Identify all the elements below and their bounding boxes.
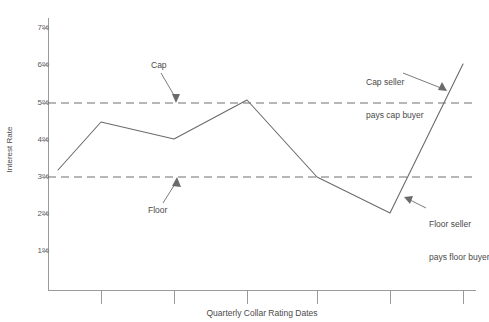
cap-seller-line-1: Cap seller (366, 77, 424, 88)
floor-seller-annotation-label: Floor seller pays floor buyer (429, 197, 489, 285)
interest-rate-collar-chart: 7% 6% 5% 4% 3% 2% 1% Interest Rate Quart… (0, 0, 489, 322)
cap-seller-line-2: pays cap buyer (366, 110, 424, 121)
floor-seller-line-1: Floor seller (429, 219, 489, 230)
plot-area (0, 0, 489, 322)
floor-annotation-label: Floor (148, 205, 167, 216)
cap-annotation-arrow (161, 73, 180, 103)
cap-seller-annotation-label: Cap seller pays cap buyer (366, 55, 424, 143)
cap-annotation-label: Cap (151, 60, 167, 71)
floor-seller-annotation-arrow (404, 196, 426, 208)
floor-seller-line-2: pays floor buyer (429, 252, 489, 263)
floor-annotation-arrow (163, 177, 181, 203)
